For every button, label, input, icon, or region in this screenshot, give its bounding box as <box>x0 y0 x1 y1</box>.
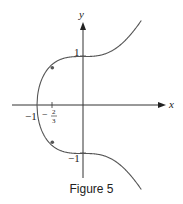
label-x-neg23-sign: − <box>42 109 48 120</box>
label-y-pos1: 1 <box>74 46 80 58</box>
y-axis-arrow-icon <box>80 22 86 30</box>
label-y-neg1: −1 <box>68 152 80 164</box>
y-axis-label: y <box>78 8 84 20</box>
label-x-neg23-den: 3 <box>52 117 56 125</box>
point-inflection-lower <box>51 141 55 145</box>
curve-upper <box>37 20 141 105</box>
figure-plot: y x −1 − 2 3 1 −1 <box>0 0 183 204</box>
label-x-neg23-num: 2 <box>52 108 56 116</box>
x-axis-label: x <box>168 98 174 110</box>
point-inflection-upper <box>51 66 55 70</box>
label-x-neg1: −1 <box>25 110 37 122</box>
figure-caption: Figure 5 <box>0 182 183 196</box>
x-axis-arrow-icon <box>158 102 166 108</box>
